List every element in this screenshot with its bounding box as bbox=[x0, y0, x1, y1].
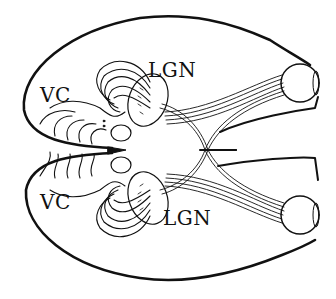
visual-pathway-diagram: LGN VC VC LGN bbox=[0, 0, 336, 299]
label-lgn-bottom: LGN bbox=[163, 208, 211, 228]
label-vc-bottom: VC bbox=[40, 192, 71, 212]
brain-outline-drawing bbox=[0, 0, 336, 299]
label-vc-top: VC bbox=[40, 85, 71, 105]
label-lgn-top: LGN bbox=[148, 60, 196, 80]
